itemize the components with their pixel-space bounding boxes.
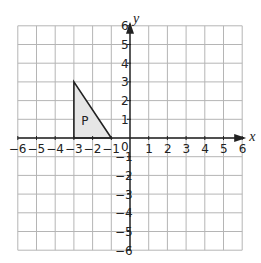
y-tick-label: 6 bbox=[121, 19, 129, 33]
x-axis-arrow-icon bbox=[234, 134, 246, 142]
x-tick-label: 2 bbox=[164, 142, 172, 156]
x-tick-label: 1 bbox=[145, 142, 153, 156]
y-tick-label: −1 bbox=[115, 150, 133, 164]
y-tick-label: −3 bbox=[115, 188, 133, 202]
y-tick-label: 1 bbox=[121, 113, 129, 127]
y-tick-label: 5 bbox=[121, 38, 129, 52]
shape-label: P bbox=[81, 114, 88, 128]
x-axis-label: x bbox=[248, 129, 256, 144]
x-tick-label: −4 bbox=[46, 142, 64, 156]
x-tick-label: 3 bbox=[183, 142, 191, 156]
x-tick-label: −3 bbox=[65, 142, 83, 156]
y-tick-label: −6 bbox=[115, 244, 133, 258]
y-tick-label: 2 bbox=[121, 94, 129, 108]
x-tick-label: 6 bbox=[239, 142, 247, 156]
y-tick-label: −4 bbox=[115, 206, 133, 220]
y-tick-label: 3 bbox=[121, 75, 129, 89]
x-tick-label: −2 bbox=[84, 142, 102, 156]
x-tick-label: 4 bbox=[201, 142, 209, 156]
y-tick-label: −5 bbox=[115, 225, 133, 239]
y-axis-label: y bbox=[131, 11, 140, 26]
x-tick-label: 5 bbox=[220, 142, 228, 156]
coordinate-grid: Pxy−6−5−4−3−2−11234560654321−1−2−3−4−5−6 bbox=[0, 0, 261, 263]
y-tick-label: 4 bbox=[121, 57, 129, 71]
x-tick-label: −5 bbox=[28, 142, 46, 156]
x-tick-label: −6 bbox=[9, 142, 27, 156]
y-tick-label: −2 bbox=[115, 169, 133, 183]
